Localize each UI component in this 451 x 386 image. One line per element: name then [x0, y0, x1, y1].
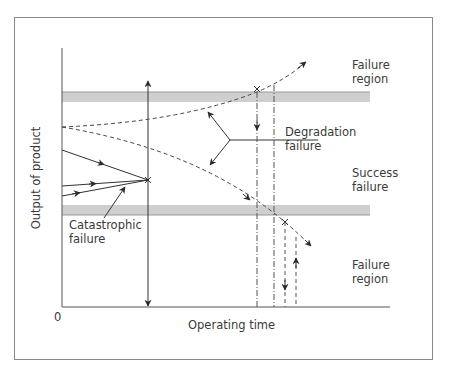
lower-limit-band: [62, 205, 370, 215]
label-line: region: [352, 272, 390, 286]
label-line: failure: [285, 139, 356, 153]
upper-limit-band: [62, 92, 370, 102]
degradation-failure-label: Degradation failure: [285, 125, 356, 153]
label-line: failure: [352, 180, 398, 194]
catastrophic-failure-label: Catastrophic failure: [69, 218, 142, 246]
label-line: region: [352, 72, 390, 86]
success-region-label: Success failure: [352, 166, 398, 194]
lower-failure-region-label: Failure region: [352, 258, 390, 286]
label-line: Catastrophic: [69, 218, 142, 232]
label-line: Success: [352, 166, 398, 180]
label-line: Failure: [352, 258, 390, 272]
upper-failure-point-icon: [254, 86, 260, 92]
y-axis-label: Output of product: [29, 127, 43, 230]
origin-label: 0: [54, 310, 61, 324]
x-axis-label: Operating time: [188, 318, 275, 332]
upper-failure-region-label: Failure region: [352, 58, 390, 86]
label-line: Failure: [352, 58, 390, 72]
label-line: Degradation: [285, 125, 356, 139]
label-line: failure: [69, 232, 142, 246]
